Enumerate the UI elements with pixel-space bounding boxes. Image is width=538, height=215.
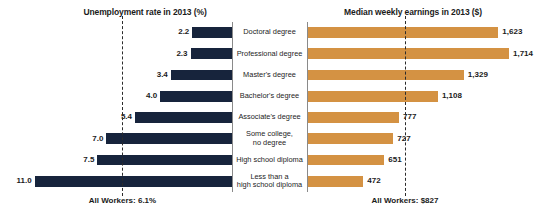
unemployment-value-label: 3.4 — [157, 69, 168, 81]
earnings-bar — [308, 48, 509, 59]
unemployment-value-label: 7.5 — [83, 154, 94, 166]
category-label: Less than ahigh school diploma — [233, 171, 306, 192]
earnings-value-label: 1,623 — [502, 26, 522, 38]
earnings-average-label: All Workers: $827 — [345, 196, 465, 205]
unemployment-value-label: 7.0 — [92, 133, 103, 145]
unemployment-axis-spine — [232, 22, 233, 192]
unemployment-bar — [191, 48, 232, 59]
earnings-value-label: 472 — [367, 175, 380, 187]
category-label: Doctoral degree — [233, 22, 306, 43]
category-label: High school diploma — [233, 150, 306, 171]
unemployment-value-label: 11.0 — [17, 175, 32, 187]
earnings-value-label: 651 — [388, 154, 401, 166]
earnings-bar — [308, 133, 393, 144]
education-pays-chart: Unemployment rate in 2013 (%) Median wee… — [0, 0, 538, 215]
category-label: Some college,no degree — [233, 128, 306, 149]
unemployment-value-label: 2.2 — [178, 26, 189, 38]
unemployment-bar — [97, 155, 231, 166]
earnings-reference-line — [405, 16, 406, 196]
chart-row: 7.5High school diploma651 — [0, 150, 538, 171]
earnings-bar — [308, 155, 384, 166]
earnings-bar — [308, 27, 498, 38]
unemployment-bar — [35, 176, 232, 187]
unemployment-bar — [171, 70, 232, 81]
unemployment-value-label: 4.0 — [146, 90, 157, 102]
earnings-value-label: 1,108 — [442, 90, 462, 102]
unemployment-panel-title: Unemployment rate in 2013 (%) — [0, 7, 290, 17]
unemployment-value-label: 2.3 — [176, 48, 187, 60]
chart-row: 4.0Bachelor's degree1,108 — [0, 86, 538, 107]
earnings-bar — [308, 176, 363, 187]
unemployment-bar — [135, 112, 232, 123]
earnings-bar — [308, 112, 399, 123]
unemployment-bar — [106, 133, 231, 144]
category-label: Master's degree — [233, 65, 306, 86]
earnings-value-label: 727 — [397, 133, 410, 145]
category-label: Professional degree — [233, 43, 306, 64]
earnings-panel-title: Median weekly earnings in 2013 ($) — [288, 7, 538, 17]
earnings-bar — [308, 70, 464, 81]
earnings-value-label: 1,714 — [513, 48, 533, 60]
chart-row: 5.4Associate's degree777 — [0, 107, 538, 128]
unemployment-reference-line — [122, 16, 123, 196]
unemployment-bar — [192, 27, 231, 38]
earnings-bar — [308, 91, 438, 102]
category-label: Associate's degree — [233, 107, 306, 128]
chart-row: 3.4Master's degree1,329 — [0, 65, 538, 86]
unemployment-average-label: All Workers: 6.1% — [62, 196, 182, 205]
chart-row: 7.0Some college,no degree727 — [0, 128, 538, 149]
earnings-axis-spine — [307, 22, 308, 192]
unemployment-bar — [160, 91, 232, 102]
earnings-value-label: 1,329 — [468, 69, 488, 81]
chart-row: 2.2Doctoral degree1,623 — [0, 22, 538, 43]
plot-area: 2.2Doctoral degree1,6232.3Professional d… — [0, 22, 538, 192]
chart-row: 11.0Less than ahigh school diploma472 — [0, 171, 538, 192]
chart-row: 2.3Professional degree1,714 — [0, 43, 538, 64]
category-label: Bachelor's degree — [233, 86, 306, 107]
